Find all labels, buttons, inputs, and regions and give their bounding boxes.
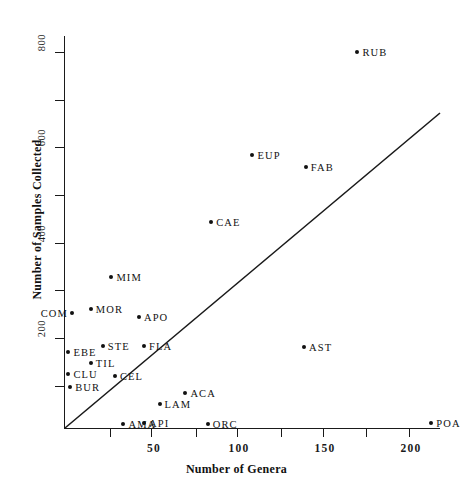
data-point-api <box>142 421 146 425</box>
data-point-mor <box>89 307 93 311</box>
data-point-label-mim: MIM <box>116 272 141 283</box>
x-tick-125 <box>281 428 282 437</box>
y-tick-300 <box>55 290 64 291</box>
data-point-label-rub: RUB <box>362 47 387 58</box>
data-point-label-ebe: EBE <box>73 346 96 357</box>
data-point-poa <box>429 421 433 425</box>
y-tick-500 <box>55 195 64 196</box>
y-tick-label-200: 200 <box>36 320 47 337</box>
x-tick-label-100: 100 <box>229 442 250 454</box>
data-point-ama <box>121 422 125 426</box>
data-point-eup <box>250 153 254 157</box>
x-tick-25 <box>110 428 111 437</box>
y-tick-label-800: 800 <box>36 34 47 51</box>
y-tick-100 <box>55 386 64 387</box>
data-point-label-cae: CAE <box>216 217 240 228</box>
data-point-label-clu: CLU <box>73 368 97 379</box>
data-point-cae <box>209 220 213 224</box>
y-tick-800 <box>55 52 64 53</box>
data-point-ste <box>101 344 105 348</box>
data-point-aca <box>183 391 187 395</box>
x-tick-100 <box>237 428 238 437</box>
data-point-label-ast: AST <box>309 342 332 353</box>
data-point-fla <box>142 344 146 348</box>
x-tick-150 <box>323 428 324 437</box>
data-point-label-aca: ACA <box>190 388 215 399</box>
data-point-com <box>70 311 74 315</box>
data-point-label-eup: EUP <box>257 149 280 160</box>
data-point-ebe <box>66 350 70 354</box>
data-point-label-fab: FAB <box>311 162 334 173</box>
scatter-plot: 200 400 600 800 50 100 150 200 Number of… <box>0 0 473 491</box>
data-point-mim <box>109 275 113 279</box>
x-tick-label-200: 200 <box>401 442 422 454</box>
data-point-label-orc: ORC <box>213 418 238 429</box>
data-point-lam <box>158 402 162 406</box>
y-axis-line <box>64 36 65 429</box>
data-point-label-ste: STE <box>108 341 130 352</box>
data-point-clu <box>66 372 70 376</box>
data-point-til <box>89 361 93 365</box>
y-tick-600 <box>55 147 64 148</box>
data-point-fab <box>304 165 308 169</box>
data-point-label-apo: APO <box>144 312 168 323</box>
data-point-rub <box>355 50 359 54</box>
data-point-label-poa: POA <box>436 417 460 428</box>
data-point-orc <box>206 422 210 426</box>
data-point-label-mor: MOR <box>96 304 123 315</box>
data-point-label-api: API <box>149 417 169 428</box>
data-point-apo <box>137 315 141 319</box>
data-point-label-lam: LAM <box>165 399 192 410</box>
data-point-bur <box>68 385 72 389</box>
x-tick-label-150: 150 <box>315 442 336 454</box>
y-tick-200 <box>55 338 64 339</box>
x-tick-175 <box>366 428 367 437</box>
x-tick-label-50: 50 <box>147 442 161 454</box>
y-axis-title: Number of Samples Collected <box>30 120 45 320</box>
x-axis-title: Number of Genera <box>0 462 473 477</box>
data-point-label-til: TIL <box>96 358 116 369</box>
y-tick-400 <box>55 243 64 244</box>
data-point-label-cel: CEL <box>120 370 143 381</box>
y-tick-700 <box>55 100 64 101</box>
x-tick-50 <box>151 428 152 437</box>
data-point-label-bur: BUR <box>75 382 100 393</box>
x-tick-200 <box>409 428 410 437</box>
data-point-label-fla: FLA <box>149 341 172 352</box>
x-axis-line <box>64 428 440 429</box>
data-point-label-com: COM <box>41 308 68 319</box>
x-tick-75 <box>196 428 197 437</box>
data-point-ast <box>302 345 306 349</box>
data-point-cel <box>113 374 117 378</box>
